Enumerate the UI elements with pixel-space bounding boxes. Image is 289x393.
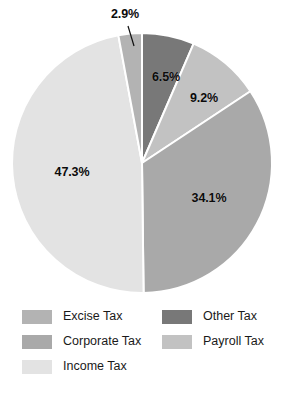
pie-slice-group: [12, 33, 272, 293]
legend-label: Other Tax: [203, 310, 257, 323]
pie-svg: [0, 0, 289, 300]
legend-label: Payroll Tax: [203, 335, 264, 348]
pie-value-label: 47.3%: [55, 165, 90, 179]
legend-item[interactable]: Other Tax: [162, 305, 264, 328]
legend-item[interactable]: Income Tax: [22, 355, 141, 378]
legend-label: Income Tax: [63, 360, 127, 373]
legend-label: Corporate Tax: [63, 335, 141, 348]
legend-swatch: [22, 360, 52, 374]
pie-value-label: 9.2%: [190, 91, 218, 105]
legend-swatch: [162, 310, 192, 324]
legend-column-left: Excise TaxCorporate TaxIncome Tax: [22, 305, 141, 380]
legend-swatch: [22, 310, 52, 324]
legend-item[interactable]: Excise Tax: [22, 305, 141, 328]
legend: Excise TaxCorporate TaxIncome Tax Other …: [0, 305, 289, 393]
legend-label: Excise Tax: [63, 310, 123, 323]
legend-swatch: [162, 335, 192, 349]
legend-item[interactable]: Payroll Tax: [162, 330, 264, 353]
pie-value-label: 2.9%: [111, 7, 139, 21]
legend-column-right: Other TaxPayroll Tax: [162, 305, 264, 355]
legend-item[interactable]: Corporate Tax: [22, 330, 141, 353]
pie-chart: 6.5%9.2%34.1%47.3%2.9% Excise TaxCorpora…: [0, 0, 289, 393]
pie-value-label: 6.5%: [152, 70, 180, 84]
pie-plot-area: 6.5%9.2%34.1%47.3%2.9%: [0, 0, 289, 300]
legend-swatch: [22, 335, 52, 349]
pie-value-label: 34.1%: [192, 191, 227, 205]
